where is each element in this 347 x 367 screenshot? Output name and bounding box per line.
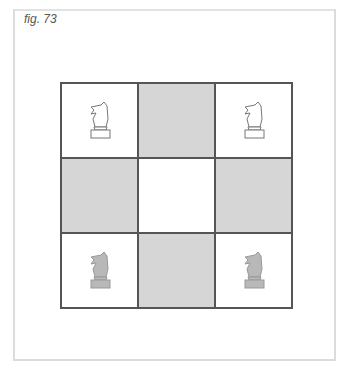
square-c3[interactable]: [216, 84, 291, 157]
black-knight-icon[interactable]: [241, 251, 267, 291]
square-a3[interactable]: [62, 84, 137, 157]
square-c1[interactable]: [216, 234, 291, 307]
square-c2[interactable]: [216, 159, 291, 232]
white-knight-icon[interactable]: [241, 101, 267, 141]
figure-caption: fig. 73: [24, 12, 57, 26]
square-a2[interactable]: [62, 159, 137, 232]
black-knight-icon[interactable]: [87, 251, 113, 291]
square-b1[interactable]: [139, 234, 214, 307]
chess-board: [60, 82, 293, 309]
square-a1[interactable]: [62, 234, 137, 307]
square-b3[interactable]: [139, 84, 214, 157]
square-b2[interactable]: [139, 159, 214, 232]
white-knight-icon[interactable]: [87, 101, 113, 141]
